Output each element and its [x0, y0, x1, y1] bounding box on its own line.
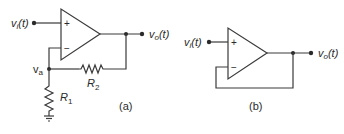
r2-resistor-icon — [79, 65, 105, 73]
r1-label: R1 — [60, 91, 73, 106]
op-amp-a-minus-sign: − — [64, 43, 70, 54]
output-terminal-a — [140, 32, 144, 36]
r2-label: R2 — [87, 77, 100, 92]
input-terminal-b — [207, 40, 211, 44]
feedback-wire-a — [105, 34, 126, 69]
input-label-a: vi(t) — [11, 17, 29, 31]
caption-a: (a) — [119, 100, 132, 112]
input-terminal-a — [32, 21, 36, 25]
circuit-a: + − vi(t) vo(t) va — [11, 9, 170, 121]
ground-icon — [44, 116, 54, 121]
circuit-b: + − vi(t) vo(t) (b) — [184, 28, 339, 112]
output-terminal-b — [309, 51, 313, 55]
input-label-b: vi(t) — [184, 36, 202, 50]
op-amp-b-minus-sign: − — [231, 62, 237, 73]
op-amp-b-plus-sign: + — [231, 37, 237, 48]
caption-b: (b) — [249, 100, 262, 112]
op-amp-a-plus-sign: + — [64, 18, 70, 29]
inverting-wire-a — [49, 48, 61, 69]
output-label-b: vo(t) — [318, 47, 339, 61]
va-label: va — [33, 63, 44, 77]
r1-resistor-icon — [45, 84, 53, 113]
output-label-a: vo(t) — [149, 28, 170, 42]
op-amp-circuits-figure: + − vi(t) vo(t) va — [0, 0, 344, 134]
